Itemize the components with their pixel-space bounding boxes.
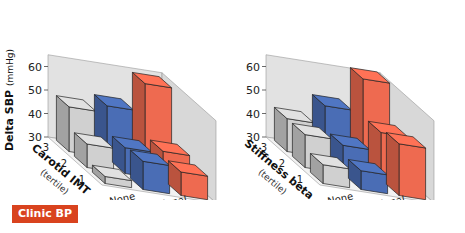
bar-persistent-tertile-1	[386, 133, 425, 200]
clinic-bp-badge: Clinic BP	[12, 205, 78, 223]
y-tick-label: 50	[28, 84, 42, 97]
y-tick-label: 50	[246, 84, 260, 97]
chart-svg: 30405060NoneOccasionalPersistentInsomnia…	[0, 0, 232, 200]
chart-carotid-imt: 30405060NoneOccasionalPersistentInsomnia…	[0, 0, 232, 200]
x-category-label: Occasional	[133, 194, 188, 200]
y-tick-label: 60	[246, 61, 260, 74]
y-tick-label: 60	[28, 61, 42, 74]
y-tick-label: 30	[28, 131, 42, 144]
x-category-label: Occasional	[351, 194, 406, 200]
y-axis-title: Delta SBP (mmHg)	[3, 49, 16, 151]
y-tick-label: 40	[28, 108, 42, 121]
chart-svg: 30405060NoneOccasionalPersistentInsomnia…	[233, 0, 465, 200]
x-category-label: None	[326, 190, 354, 200]
y-tick-label: 40	[246, 108, 260, 121]
x-category-label: None	[108, 190, 136, 200]
chart-stiffness-beta: 30405060NoneOccasionalPersistentInsomnia…	[233, 0, 465, 200]
